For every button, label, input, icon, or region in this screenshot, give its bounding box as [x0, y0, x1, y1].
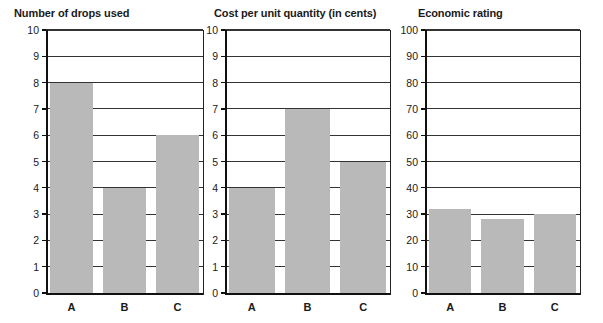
bar-c [340, 162, 386, 294]
bar-a [50, 83, 93, 293]
y-axis-tick-label: 0 [383, 287, 418, 299]
chart-figure: Number of drops used012345678910ABCCost … [0, 0, 603, 323]
y-axis-tick-label: 0 [4, 287, 39, 299]
gridline [425, 56, 580, 57]
y-axis-line [425, 30, 427, 295]
y-axis-tick-label: 30 [383, 208, 418, 220]
y-axis-tick-label: 80 [383, 77, 418, 89]
y-axis-tick-label: 7 [4, 103, 39, 115]
chart-title-1: Number of drops used [14, 7, 129, 19]
gridline [425, 135, 580, 136]
y-axis-tick-label: 60 [383, 129, 418, 141]
y-axis-tick-label: 10 [383, 261, 418, 273]
y-axis-tick-label: 20 [383, 234, 418, 246]
gridline [46, 29, 203, 30]
gridline [425, 108, 580, 109]
y-axis-tick-label: 70 [383, 103, 418, 115]
gridline [425, 29, 580, 30]
x-axis-tick-label: B [481, 301, 523, 313]
y-axis-tick-label: 5 [4, 156, 39, 168]
chart-title-2: Cost per unit quantity (in cents) [214, 7, 376, 19]
y-axis-tick-label: 50 [383, 156, 418, 168]
y-axis-tick-label: 9 [4, 50, 39, 62]
x-axis-tick-label: A [429, 301, 471, 313]
y-axis-tick-label: 2 [183, 234, 218, 246]
x-axis-tick-label: A [229, 301, 275, 313]
y-axis-tick-label: 2 [4, 234, 39, 246]
bar-b [481, 219, 523, 293]
y-axis-tick-label: 6 [4, 129, 39, 141]
x-axis-tick-label: B [285, 301, 331, 313]
y-axis-tick-label: 3 [183, 208, 218, 220]
y-axis-tick-label: 8 [183, 77, 218, 89]
y-axis-tick-label: 40 [383, 182, 418, 194]
y-axis-line [225, 30, 227, 295]
y-axis-tick-label: 10 [4, 24, 39, 36]
x-axis-tick-label: A [50, 301, 93, 313]
y-axis-tick-label: 5 [183, 156, 218, 168]
y-axis-tick-label: 9 [183, 50, 218, 62]
gridline [46, 56, 203, 57]
x-axis-line [46, 293, 204, 295]
y-axis-tick-label: 7 [183, 103, 218, 115]
gridline [425, 187, 580, 188]
bar-a [429, 209, 471, 293]
y-axis-tick-label: 0 [183, 287, 218, 299]
y-axis-tick-label: 100 [383, 24, 418, 36]
bar-c [534, 214, 576, 293]
y-axis-tick-label: 90 [383, 50, 418, 62]
x-axis-line [225, 293, 391, 295]
y-axis-tick-label: 3 [4, 208, 39, 220]
x-axis-tick-label: B [103, 301, 146, 313]
y-axis-tick-label: 1 [183, 261, 218, 273]
x-axis-tick-label: C [340, 301, 386, 313]
bar-a [229, 188, 275, 293]
chart-title-3: Economic rating [418, 7, 503, 19]
y-axis-tick-label: 6 [183, 129, 218, 141]
x-axis-line [425, 293, 581, 295]
y-axis-line [46, 30, 48, 295]
gridline [425, 161, 580, 162]
gridline [225, 82, 390, 83]
bar-b [285, 109, 331, 293]
y-axis-tick-label: 4 [4, 182, 39, 194]
x-axis-tick-label: C [156, 301, 199, 313]
gridline [225, 29, 390, 30]
y-axis-tick-label: 4 [183, 182, 218, 194]
gridline [225, 56, 390, 57]
y-axis-tick-label: 1 [4, 261, 39, 273]
plot-frame-right [580, 30, 581, 295]
bar-b [103, 188, 146, 293]
gridline [425, 82, 580, 83]
x-axis-tick-label: C [534, 301, 576, 313]
y-axis-tick-label: 8 [4, 77, 39, 89]
y-axis-tick-label: 10 [183, 24, 218, 36]
